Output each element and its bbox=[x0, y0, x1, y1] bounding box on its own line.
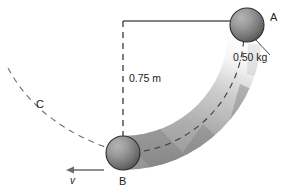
label-mass: 0.50 kg bbox=[233, 52, 267, 63]
label-point-c: C bbox=[36, 99, 44, 110]
ball-b bbox=[106, 136, 140, 170]
velocity-arrow bbox=[66, 167, 104, 174]
label-velocity: v bbox=[70, 176, 75, 186]
physics-diagram-figure: A B C v 0.50 kg 0.75 m bbox=[0, 0, 300, 195]
diagram-canvas bbox=[0, 0, 300, 195]
label-height: 0.75 m bbox=[129, 73, 161, 84]
trajectory-dashed-arc bbox=[8, 68, 123, 153]
label-point-b: B bbox=[119, 176, 126, 187]
label-point-a: A bbox=[270, 12, 277, 23]
ball-a bbox=[230, 8, 264, 42]
